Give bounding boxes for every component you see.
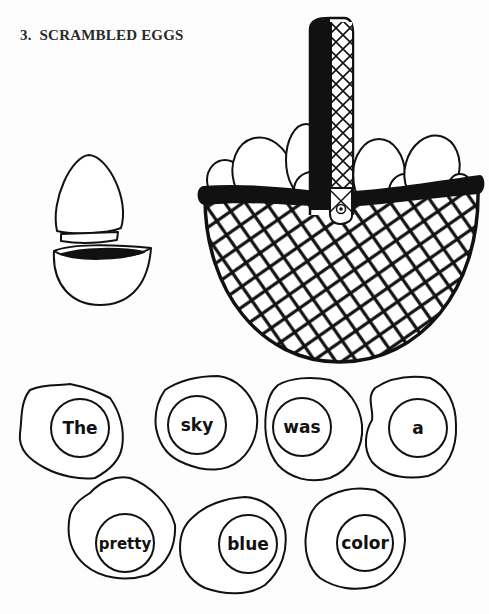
word-egg[interactable]	[69, 477, 176, 578]
word-blue: blue	[227, 534, 269, 554]
word-the: The	[62, 418, 97, 438]
word-a: a	[412, 418, 423, 438]
word-color: color	[341, 533, 389, 553]
word-was: was	[283, 417, 320, 437]
word-egg[interactable]	[366, 377, 456, 478]
cracked-egg-icon	[54, 155, 151, 305]
word-sky: sky	[181, 415, 214, 435]
egg-basket-icon	[198, 18, 485, 370]
worksheet-page: 3. SCRAMBLED EGGS	[0, 0, 489, 614]
word-pretty: pretty	[99, 535, 152, 553]
